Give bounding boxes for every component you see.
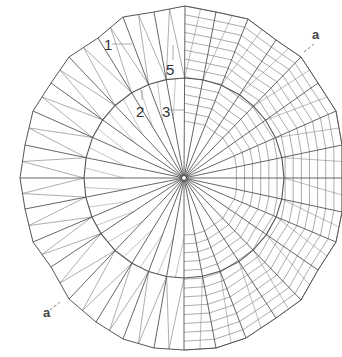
spoke-line [184,178,342,212]
spoke-line [33,111,184,178]
spoke-line [184,57,301,178]
label-5: 5 [166,62,174,77]
spoke-line [184,178,301,300]
radial-plan-diagram [0,0,342,357]
label-3: 3 [162,104,170,119]
label-a-bottom: a [43,306,50,319]
section-line-a-top [304,44,314,52]
spoke-line [123,17,184,178]
spoke-line [123,178,184,339]
section-line-a-bottom [50,302,60,310]
spoke-line [184,6,185,178]
label-2: 2 [136,104,144,119]
label-a-top: a [312,28,319,41]
center-hub [182,176,187,181]
spoke-line [184,178,336,242]
spoke-line [184,178,318,270]
spoke-line [96,178,184,322]
label-1: 1 [104,37,112,52]
spoke-line [154,178,184,348]
spoke-line [184,12,216,178]
spoke-line [33,178,184,242]
